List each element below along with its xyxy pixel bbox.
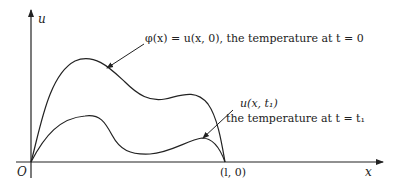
x-axis-label: x [365,166,372,178]
phi-annotation: φ(x) = u(x, 0), the temperature at t = 0 [145,33,364,44]
endpoint-label: (l, 0) [220,167,246,178]
phi-annotation-arrow [107,44,144,68]
y-axis-label: u [38,13,46,25]
initial-temperature-curve [31,59,225,162]
origin-label: O [17,166,27,178]
t1-annotation-desc: the temperature at t = t₁ [226,113,365,124]
temperature-at-t1-curve [31,116,225,162]
diagram-canvas [0,0,397,188]
t1-annotation-title: u(x, t₁) [240,98,278,109]
